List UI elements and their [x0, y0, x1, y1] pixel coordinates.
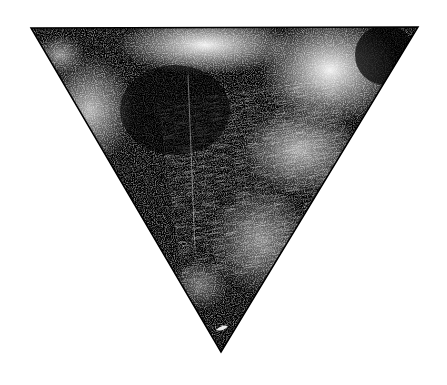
- triangle-fill: [0, 0, 447, 385]
- textured-triangle: [0, 0, 447, 385]
- image-canvas: [0, 0, 447, 385]
